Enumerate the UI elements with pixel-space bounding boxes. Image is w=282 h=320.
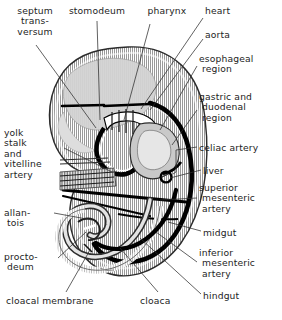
label-gastric-duodenal: gastric and duodenal region: [199, 92, 281, 123]
label-septum-transversum: septum trans- versum: [4, 6, 66, 37]
label-hindgut: hindgut: [203, 291, 273, 301]
label-cloaca: cloaca: [140, 296, 192, 306]
label-liver: liver: [203, 166, 273, 176]
label-celiac-artery: celiac artery: [199, 143, 281, 153]
anatomy-figure: septum trans- versumstomodeumpharynxhear…: [0, 0, 282, 320]
label-esophageal-region: esophageal region: [199, 54, 279, 75]
label-midgut: midgut: [203, 228, 273, 238]
label-yolk-stalk: yolk stalk and vitelline artery: [4, 128, 62, 180]
label-heart: heart: [205, 6, 265, 16]
label-pharynx: pharynx: [138, 6, 196, 16]
label-proctodeum: procto- deum: [4, 252, 56, 273]
label-aorta: aorta: [205, 30, 265, 40]
label-stomodeum: stomodeum: [60, 6, 134, 16]
label-allantois: allan- tois: [4, 208, 52, 229]
label-superior-mesenteric: superior mesenteric artery: [199, 183, 281, 214]
label-cloacal-membrane: cloacal membrane: [6, 296, 118, 306]
label-inferior-mesenteric: inferior mesenteric artery: [199, 248, 281, 279]
